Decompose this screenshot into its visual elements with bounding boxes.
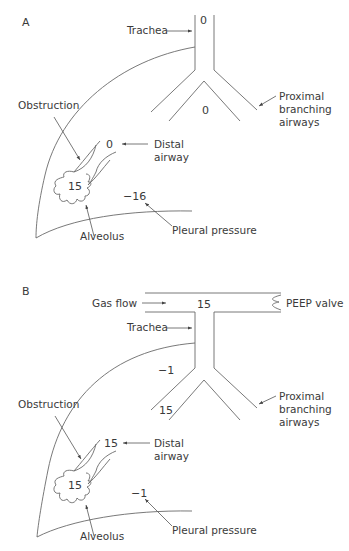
obstruction-label: Obstruction xyxy=(18,99,79,111)
proximal-pressure: 15 xyxy=(159,404,173,417)
circuit-pressure: 15 xyxy=(197,298,211,311)
pleural-pressure-value: −16 xyxy=(123,190,146,203)
proximal-label-line2: branching xyxy=(279,403,332,415)
distal-label-line2: airway xyxy=(154,450,189,462)
trachea-pressure: −1 xyxy=(158,364,174,377)
pleural-arrow xyxy=(145,499,172,526)
peep-label: PEEP valve xyxy=(286,297,344,309)
distal-airway-right xyxy=(88,451,116,484)
obstruction-arrow xyxy=(54,117,80,160)
obstruction-label: Obstruction xyxy=(18,398,79,410)
pleural-arrow xyxy=(145,203,172,226)
proximal-label-line1: Proximal xyxy=(279,390,324,402)
proximal-label-line3: airways xyxy=(279,116,319,128)
panel-a: A 0 Trachea 0 Proximal branching airways… xyxy=(18,14,332,242)
trachea-label: Trachea xyxy=(126,321,168,333)
gasflow-label: Gas flow xyxy=(92,297,137,309)
distal-airway-left xyxy=(74,440,100,471)
panel-b-label: B xyxy=(22,285,30,298)
alveolus-label: Alveolus xyxy=(80,530,124,542)
trachea-label: Trachea xyxy=(126,24,168,36)
trachea-pressure: 0 xyxy=(200,14,207,27)
pleural-pressure-value: −1 xyxy=(131,487,147,500)
pleural-label: Pleural pressure xyxy=(172,224,257,236)
distal-airway-right xyxy=(88,152,116,185)
alveolus-label: Alveolus xyxy=(80,230,124,242)
alveolus-pressure: 15 xyxy=(68,479,82,492)
distal-pressure: 0 xyxy=(106,138,113,151)
airway-pressure-diagram: A 0 Trachea 0 Proximal branching airways… xyxy=(0,0,349,551)
distal-pressure: 15 xyxy=(104,437,118,450)
ventilator-circuit xyxy=(145,293,281,312)
panel-b: B Gas flow 15 PEEP valve Trachea −1 15 P… xyxy=(18,285,344,542)
proximal-label-line3: airways xyxy=(279,416,319,428)
peep-valve-icon xyxy=(272,295,281,310)
panel-a-label: A xyxy=(22,16,30,29)
obstruction-arrow xyxy=(55,416,81,459)
distal-label-line2: airway xyxy=(154,151,189,163)
distal-label-line1: Distal xyxy=(154,138,184,150)
proximal-label-line1: Proximal xyxy=(279,90,324,102)
pleural-label: Pleural pressure xyxy=(172,524,257,536)
proximal-arrow xyxy=(259,396,276,404)
proximal-arrow xyxy=(259,96,276,106)
distal-label-line1: Distal xyxy=(154,437,184,449)
alveolus-pressure: 15 xyxy=(68,180,82,193)
proximal-pressure: 0 xyxy=(202,104,209,117)
proximal-label-line2: branching xyxy=(279,103,332,115)
